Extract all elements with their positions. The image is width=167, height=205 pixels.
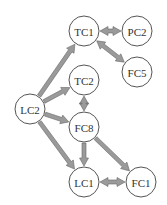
edge-tc2-fc8-bidirectional-arrow xyxy=(80,96,89,111)
node-label: PC2 xyxy=(128,26,147,38)
node-label: LC1 xyxy=(74,177,94,189)
node-tc1: TC1 xyxy=(69,16,99,46)
node-pc2: PC2 xyxy=(122,16,152,46)
edge-lc2-tc2-arrow xyxy=(43,87,70,103)
node-fc5: FC5 xyxy=(122,57,152,87)
node-label: FC5 xyxy=(128,67,147,79)
edges-layer xyxy=(38,27,130,187)
node-tc2: TC2 xyxy=(69,65,99,95)
diagram-canvas: TC1PC2FC5TC2LC2FC8LC1FC1 xyxy=(0,0,167,205)
node-fc8: FC8 xyxy=(69,112,99,142)
node-label: FC8 xyxy=(75,122,94,134)
edge-tc1-fc5-bidirectional-arrow xyxy=(97,41,125,62)
edge-lc2-fc8-arrow xyxy=(45,112,69,124)
edge-tc1-pc2-bidirectional-arrow xyxy=(100,27,121,36)
node-lc2: LC2 xyxy=(15,94,45,124)
node-lc1: LC1 xyxy=(69,167,99,197)
node-label: LC2 xyxy=(20,104,40,116)
edge-lc1-fc1-bidirectional-arrow xyxy=(100,178,125,187)
node-fc1: FC1 xyxy=(126,167,156,197)
node-label: TC2 xyxy=(74,75,94,87)
edge-fc8-fc1-arrow xyxy=(94,137,129,171)
node-label: FC1 xyxy=(132,177,151,189)
edge-fc8-lc1-arrow xyxy=(80,143,89,166)
node-label: TC1 xyxy=(74,26,94,38)
